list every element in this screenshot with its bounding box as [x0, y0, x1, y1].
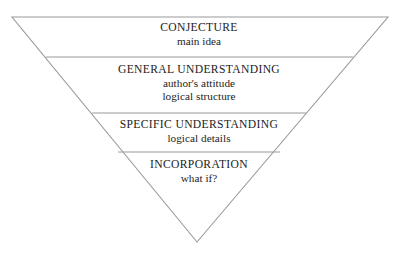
tier-general-understanding-title: GENERAL UNDERSTANDING: [0, 63, 398, 76]
tier-incorporation: INCORPORATION what if?: [0, 158, 398, 185]
tier-incorporation-line-1: what if?: [0, 172, 398, 185]
tier-specific-understanding: SPECIFIC UNDERSTANDING logical details: [0, 118, 398, 145]
tier-specific-understanding-line-1: logical details: [0, 132, 398, 145]
tier-incorporation-title: INCORPORATION: [0, 158, 398, 171]
tier-specific-understanding-title: SPECIFIC UNDERSTANDING: [0, 118, 398, 131]
tier-general-understanding: GENERAL UNDERSTANDING author's attitude …: [0, 63, 398, 102]
tier-general-understanding-line-2: logical structure: [0, 90, 398, 103]
tier-general-understanding-line-1: author's attitude: [0, 77, 398, 90]
tier-conjecture: CONJECTURE main idea: [0, 21, 398, 48]
tier-conjecture-title: CONJECTURE: [0, 21, 398, 34]
inverted-triangle-diagram: CONJECTURE main idea GENERAL UNDERSTANDI…: [0, 0, 398, 254]
tier-conjecture-line-1: main idea: [0, 35, 398, 48]
